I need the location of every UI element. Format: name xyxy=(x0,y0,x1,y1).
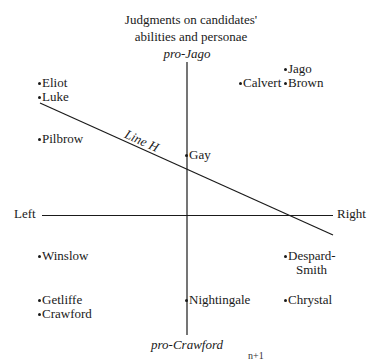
candidate-crawford: Crawford xyxy=(38,307,92,321)
point-marker-icon xyxy=(284,82,287,85)
point-marker-icon xyxy=(284,299,287,302)
pole-label-pro-jago: pro-Jago xyxy=(127,46,247,62)
point-marker-icon xyxy=(38,138,41,141)
candidate-nightingale: Nightingale xyxy=(185,293,250,307)
point-marker-icon xyxy=(38,82,41,85)
axis-label-left: Left xyxy=(14,206,36,222)
candidate-gay: Gay xyxy=(185,148,211,162)
candidate-winslow: Winslow xyxy=(38,249,88,263)
point-marker-icon xyxy=(185,154,188,157)
point-marker-icon xyxy=(284,68,287,71)
footer-superscript: n+1 xyxy=(248,350,264,361)
candidate-chrystal: Chrystal xyxy=(284,293,332,307)
axis-label-right: Right xyxy=(337,206,366,222)
candidate-pilbrow: Pilbrow xyxy=(38,132,83,146)
candidate-jago: Jago xyxy=(284,62,312,76)
candidate-getliffe: Getliffe xyxy=(38,293,82,307)
point-marker-icon xyxy=(38,255,41,258)
candidate-luke: Luke xyxy=(38,90,69,104)
point-marker-icon xyxy=(185,299,188,302)
pole-label-pro-crawford: pro-Crawford xyxy=(127,337,247,353)
point-marker-icon xyxy=(38,313,41,316)
candidate-eliot: Eliot xyxy=(38,76,67,90)
candidate-brown: Brown xyxy=(284,76,323,90)
point-marker-icon xyxy=(38,299,41,302)
point-marker-icon xyxy=(239,82,242,85)
point-marker-icon xyxy=(284,255,287,258)
candidate-calvert: Calvert xyxy=(239,76,281,90)
candidate-despard-smith: Despard- Smith xyxy=(284,249,336,277)
point-marker-icon xyxy=(38,96,41,99)
